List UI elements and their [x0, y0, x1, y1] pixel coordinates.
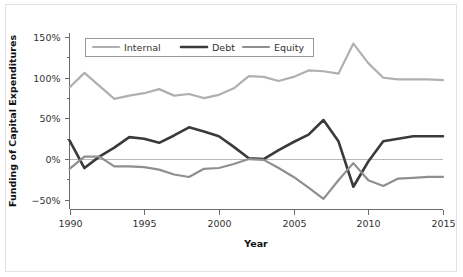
y-axis-title: Funding of Capital Expenditures: [7, 35, 18, 208]
legend-label-internal: Internal: [124, 42, 161, 53]
x-tick-group: 199019952000200520102015: [58, 210, 455, 229]
chart-legend: InternalDebtEquity: [85, 38, 313, 56]
y-tick-label: 100%: [33, 73, 60, 84]
x-tick-label: 2005: [282, 218, 306, 229]
legend-label-debt: Debt: [212, 42, 235, 53]
y-tick-label: 150%: [33, 32, 60, 43]
legend-label-equity: Equity: [274, 42, 304, 53]
x-tick-label: 2000: [207, 218, 231, 229]
x-axis-title: Year: [243, 238, 268, 249]
y-tick-label: −50%: [31, 195, 60, 206]
series-line-debt: [70, 120, 444, 187]
data-series-group: [70, 44, 444, 199]
series-line-equity: [70, 157, 444, 199]
y-tick-group: −50%0%50%100%150%: [31, 32, 69, 206]
chart-figure: −50%0%50%100%150% 1990199520002005201020…: [0, 0, 463, 277]
x-tick-label: 2010: [356, 218, 380, 229]
line-chart: −50%0%50%100%150% 1990199520002005201020…: [0, 0, 463, 277]
x-tick-label: 1995: [132, 218, 156, 229]
x-tick-label: 1990: [58, 218, 82, 229]
y-tick-label: 0%: [45, 154, 60, 165]
x-tick-label: 2015: [431, 218, 455, 229]
y-tick-label: 50%: [39, 113, 60, 124]
